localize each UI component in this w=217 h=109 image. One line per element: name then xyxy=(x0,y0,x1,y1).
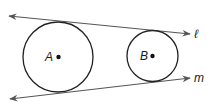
label-l: ℓ xyxy=(194,27,199,41)
tangent-line-l xyxy=(9,16,190,34)
tangent-line-m xyxy=(10,78,190,99)
tangent-circles-diagram: A B ℓ m xyxy=(0,0,217,109)
center-a-dot xyxy=(56,55,60,59)
label-m: m xyxy=(194,71,204,85)
label-b: B xyxy=(140,49,148,63)
center-b-dot xyxy=(150,54,154,58)
label-a: A xyxy=(44,50,53,64)
